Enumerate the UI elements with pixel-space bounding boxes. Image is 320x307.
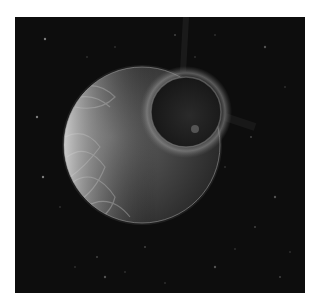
star [36,116,38,118]
star [114,46,115,47]
star [194,56,195,57]
star [279,276,280,277]
star [274,196,276,198]
star [44,38,46,40]
star [42,176,44,178]
star [96,256,97,257]
star [250,136,251,137]
star [174,34,175,35]
star [234,248,235,249]
star [254,226,255,227]
star [164,282,165,283]
star [289,251,290,252]
artwork-frame [15,17,305,293]
star [284,86,285,87]
space-painting [15,17,305,293]
star [264,46,266,48]
moon [140,17,255,158]
star [224,166,225,167]
star [59,206,60,207]
star [214,34,215,35]
star [74,266,75,267]
star [214,266,216,268]
star [124,271,125,272]
star [86,56,87,57]
star [104,276,106,278]
star [144,246,145,247]
